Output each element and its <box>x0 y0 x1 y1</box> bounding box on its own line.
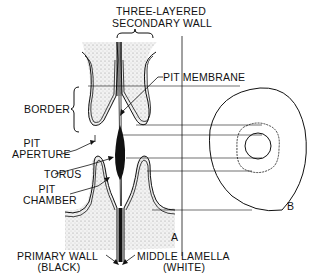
label-border: BORDER <box>24 104 70 115</box>
torus-face-outline <box>237 123 279 173</box>
torus <box>115 125 125 180</box>
label-pit-membrane: PIT MEMBRANE <box>163 72 245 83</box>
label-pit-aperture-2: APERTURE <box>12 149 71 160</box>
pit-aperture-circle <box>245 133 271 159</box>
secondary-wall-brace <box>117 29 153 38</box>
pit-face-outer-circle <box>209 88 306 211</box>
label-view-a: A <box>171 232 178 243</box>
title-line-2: SECONDARY WALL <box>112 18 206 29</box>
label-middle-lamella-2: (WHITE) <box>137 262 231 273</box>
label-torus: TORUS <box>44 169 82 180</box>
label-view-b: B <box>287 201 294 212</box>
title-line-1: THREE-LAYERED <box>116 6 200 17</box>
label-primary-wall-2: (BLACK) <box>17 262 101 273</box>
label-pit-chamber-2: CHAMBER <box>23 195 77 206</box>
border-brace <box>71 87 79 132</box>
